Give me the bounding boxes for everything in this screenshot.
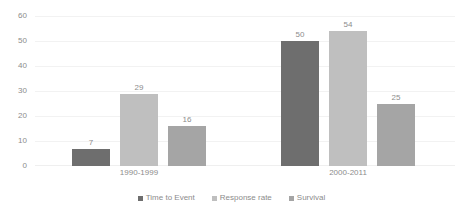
legend-item-survival[interactable]: Survival <box>289 194 325 202</box>
y-axis: 60 50 40 30 20 10 0 <box>0 16 33 166</box>
legend: Time to Event Response rate Survival <box>0 194 463 202</box>
bar-2000-2011-response-rate[interactable]: 54 <box>329 31 367 166</box>
y-axis-tick-0: 0 <box>23 162 27 170</box>
bar-label-2000-2011-time-to-event: 50 <box>296 31 305 39</box>
y-axis-tick-30: 30 <box>18 87 27 95</box>
legend-swatch-icon-survival <box>289 196 294 201</box>
bar-2000-2011-survival[interactable]: 25 <box>377 104 415 167</box>
bar-label-1990-1999-time-to-event: 7 <box>89 139 93 147</box>
y-axis-tick-10: 10 <box>18 137 27 145</box>
bar-label-2000-2011-survival: 25 <box>392 94 401 102</box>
bar-label-1990-1999-response-rate: 29 <box>135 84 144 92</box>
bars-layer: 7 29 16 50 54 25 <box>35 16 455 166</box>
bar-2000-2011-time-to-event[interactable]: 50 <box>281 41 319 166</box>
bar-label-2000-2011-response-rate: 54 <box>344 21 353 29</box>
legend-label-time-to-event: Time to Event <box>146 194 195 202</box>
x-axis: 1990-1999 2000-2011 <box>35 168 455 184</box>
legend-label-survival: Survival <box>297 194 325 202</box>
bar-1990-1999-survival[interactable]: 16 <box>168 126 206 166</box>
y-axis-tick-40: 40 <box>18 62 27 70</box>
plot-area: 7 29 16 50 54 25 <box>35 16 455 166</box>
y-axis-tick-60: 60 <box>18 12 27 20</box>
bar-1990-1999-time-to-event[interactable]: 7 <box>72 149 110 167</box>
x-axis-label-1990-1999: 1990-1999 <box>120 168 158 178</box>
bar-label-1990-1999-survival: 16 <box>183 116 192 124</box>
legend-swatch-icon-time-to-event <box>138 196 143 201</box>
legend-item-time-to-event[interactable]: Time to Event <box>138 194 195 202</box>
y-axis-tick-20: 20 <box>18 112 27 120</box>
y-axis-tick-50: 50 <box>18 37 27 45</box>
bar-chart: 60 50 40 30 20 10 0 7 29 16 <box>0 0 463 216</box>
legend-label-response-rate: Response rate <box>220 194 272 202</box>
x-axis-label-2000-2011: 2000-2011 <box>329 168 367 178</box>
legend-swatch-icon-response-rate <box>212 196 217 201</box>
bar-1990-1999-response-rate[interactable]: 29 <box>120 94 158 167</box>
legend-item-response-rate[interactable]: Response rate <box>212 194 272 202</box>
